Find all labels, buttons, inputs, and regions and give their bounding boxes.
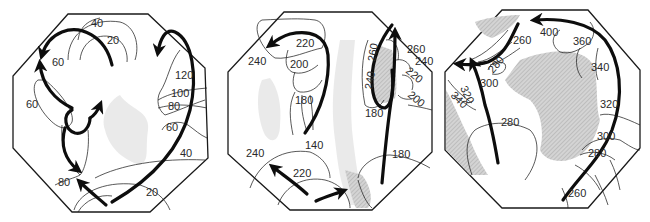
contour-label: 260 — [407, 43, 425, 55]
contour-label: 300 — [480, 77, 498, 89]
contour-label: 220 — [296, 37, 314, 49]
contour-label: 200 — [290, 58, 308, 70]
contour-label: 280 — [588, 147, 606, 159]
contour-label: 180 — [392, 148, 410, 160]
contour-label: 60 — [166, 121, 178, 133]
contour-label: 180 — [365, 107, 383, 119]
contour-label: 300 — [597, 130, 615, 142]
contour-label: 40 — [180, 147, 192, 159]
contour-label: 360 — [573, 35, 591, 47]
contour-label: 60 — [52, 56, 64, 68]
contour-label: 100 — [171, 87, 189, 99]
contour-label: 320 — [600, 98, 618, 110]
contour-label: 240 — [246, 147, 264, 159]
contour-label: 280 — [501, 116, 519, 128]
contour-label: 260 — [568, 187, 586, 199]
contour-label: 180 — [295, 94, 313, 106]
contour-label: 120 — [175, 69, 193, 81]
contour-label: 240 — [248, 55, 266, 67]
contour-label: 220 — [293, 167, 311, 179]
contour-label: 400 — [540, 26, 558, 38]
contour-label: 340 — [591, 61, 609, 73]
contour-label: 60 — [26, 98, 38, 110]
panel-1: 40 20 60 60 120 100 80 60 40 80 20 — [13, 14, 208, 212]
contour-label: 80 — [168, 100, 180, 112]
contour-label: 240 — [415, 55, 433, 67]
contour-label: 20 — [107, 34, 119, 46]
isobar-flow-diagram: 40 20 60 60 120 100 80 60 40 80 20 — [0, 0, 650, 222]
panel-3: 260 280 300 320 340 400 360 340 320 280 … — [445, 10, 640, 208]
contour-label: 140 — [305, 139, 323, 151]
contour-label: 260 — [513, 34, 531, 46]
contour-label: 20 — [146, 186, 158, 198]
contour-label: 80 — [58, 176, 70, 188]
panel-2: 220 240 200 180 140 260 240 260 240 220 … — [228, 12, 433, 210]
contour-label: 40 — [91, 17, 103, 29]
